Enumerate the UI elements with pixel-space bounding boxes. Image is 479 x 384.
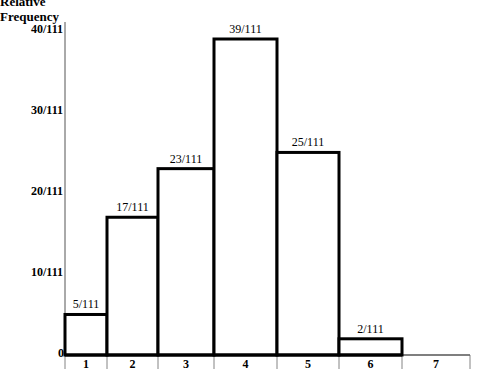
bar-value-label: 2/111 — [339, 322, 402, 337]
y-tick-label: 30/111 — [0, 103, 63, 118]
histogram-bar — [107, 217, 158, 355]
histogram-plot — [0, 0, 479, 384]
bar-value-label: 17/111 — [107, 200, 158, 215]
x-tick-label: 7 — [402, 357, 470, 372]
bar-value-label: 25/111 — [277, 135, 339, 150]
y-tick-label: 10/111 — [0, 265, 63, 280]
x-tick-label: 2 — [107, 357, 158, 372]
bar-value-label: 39/111 — [214, 22, 277, 37]
x-tick-label: 4 — [214, 357, 277, 372]
y-tick-label: 40/111 — [0, 22, 63, 37]
histogram-bar — [158, 169, 214, 355]
x-tick-label: 6 — [339, 357, 402, 372]
bar-value-label: 23/111 — [158, 152, 214, 167]
histogram-bar — [277, 152, 339, 355]
x-tick-label: 3 — [158, 357, 214, 372]
y-tick-label: 20/111 — [0, 184, 63, 199]
histogram-bar — [65, 314, 107, 355]
y-tick-label: 0 — [0, 346, 64, 361]
x-tick-label: 1 — [65, 357, 107, 372]
histogram-bar — [214, 39, 277, 355]
bar-value-label: 5/111 — [65, 297, 107, 312]
histogram-bar — [339, 339, 402, 355]
x-tick-label: 5 — [277, 357, 339, 372]
